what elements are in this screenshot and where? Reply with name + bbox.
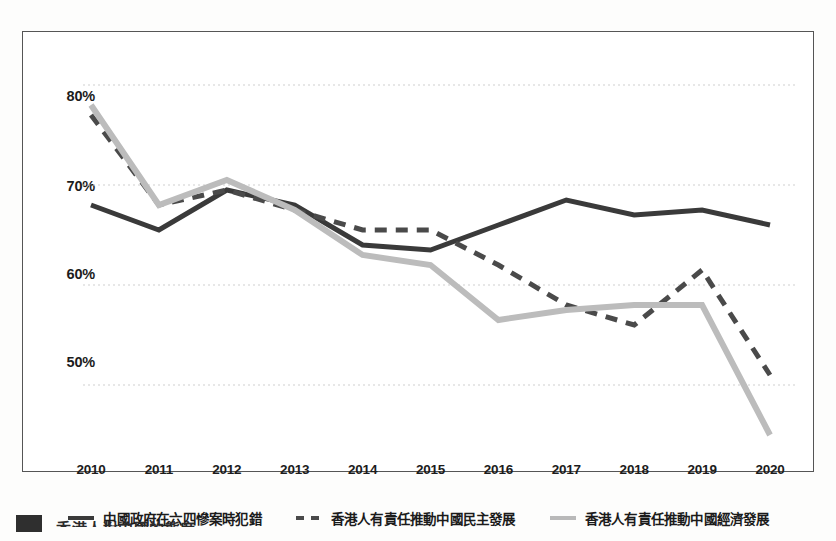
x-tick-label: 2017 — [552, 462, 581, 477]
x-tick-label: 2015 — [416, 462, 445, 477]
x-tick-label: 2016 — [484, 462, 513, 477]
figure-frame: 80% 70% 60% 50% 201020112012201320142015… — [22, 31, 814, 472]
x-tick-label: 2019 — [687, 462, 716, 477]
line-chart-svg — [83, 65, 798, 465]
x-tick-label: 2014 — [348, 462, 377, 477]
x-tick-label: 2020 — [755, 462, 784, 477]
caption-marker-icon — [16, 515, 42, 532]
plot-area — [83, 65, 798, 465]
chart-screenshot: 80% 70% 60% 50% 201020112012201320142015… — [0, 0, 836, 541]
caption-strip: 香港人對中國的態度 — [0, 505, 836, 541]
x-tick-label: 2011 — [145, 462, 174, 477]
x-tick-label: 2013 — [280, 462, 309, 477]
x-tick-label: 2010 — [76, 462, 105, 477]
caption-text: 香港人對中國的態度 — [56, 517, 196, 538]
series-line — [91, 115, 770, 375]
x-tick-label: 2012 — [212, 462, 241, 477]
x-axis: 2010201120122013201420152016201720182019… — [83, 462, 798, 484]
x-tick-label: 2018 — [620, 462, 649, 477]
